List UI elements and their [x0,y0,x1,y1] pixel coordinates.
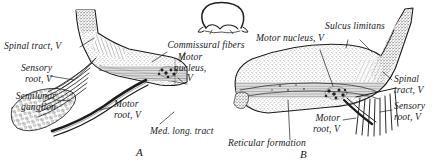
figure-canvas: Spinal tract, V Sensory root, V Semiluna… [0,0,440,166]
label-sulcus-limitans: Sulcus limitans [300,21,410,32]
label-commissural-fibers: Commissural fibers [148,40,264,51]
panel-label-b: B [300,148,307,160]
label-reticular-formation: Reticular formation [228,138,352,149]
label-motor-root-left: Motor root, V [114,99,164,120]
label-sensory-root-right: Sensory root, V [394,101,440,122]
label-med-long-tract: Med. long. tract [150,126,234,137]
label-motor-nucleus-right: Motor nucleus, V [256,33,368,44]
label-sensory-root-left: Sensory root, V [0,63,52,84]
label-semilunar-ganglion: Semilunar ganglion [0,91,56,112]
label-spinal-tract-right: Spinal tract, V [394,74,440,95]
label-motor-root-right: Motor root, V [286,113,340,134]
panel-label-a: A [136,146,143,158]
brainstem-cross-section-inset [198,3,248,35]
label-spinal-tract-left: Spinal tract, V [4,41,84,52]
label-motor-nucleus-center: Motor nucleus, V [160,52,220,84]
